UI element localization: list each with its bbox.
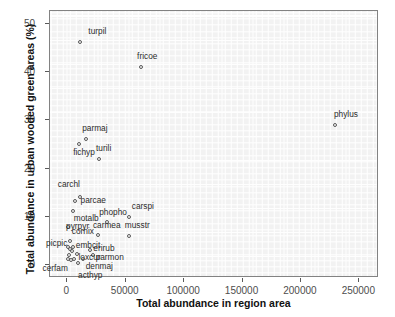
data-point (77, 142, 81, 146)
data-point-label: parcae (81, 196, 106, 205)
scatter-plot-figure: turpilfricoephylusparmajfichypturilicarc… (0, 0, 395, 317)
data-point (97, 157, 101, 161)
x-tick-label: 100000 (166, 285, 199, 296)
data-point-label: turili (96, 144, 111, 153)
data-point (69, 258, 73, 262)
data-points-layer: turpilfricoephylusparmajfichypturilicarc… (50, 11, 377, 276)
x-axis-title: Total abundance in region area (49, 297, 378, 309)
data-point-label: cornix (72, 227, 94, 236)
plot-panel: turpilfricoephylusparmajfichypturilicarc… (49, 10, 378, 277)
data-point-label: picpic (46, 239, 67, 248)
data-point-label: musstr (125, 221, 150, 230)
data-point (84, 137, 88, 141)
data-point-label: phylus (334, 110, 358, 119)
data-point (78, 40, 82, 44)
data-point-label: carmea (93, 221, 121, 230)
x-tick-label: 200000 (283, 285, 316, 296)
x-tick-label: 150000 (225, 285, 258, 296)
data-point (333, 123, 337, 127)
data-point (67, 253, 71, 257)
data-point-label: turpil (88, 27, 106, 36)
data-point (76, 261, 80, 265)
data-point-label: parmaj (82, 124, 107, 133)
x-tick-label: 50000 (111, 285, 139, 296)
data-point (139, 65, 143, 69)
x-tick-label: 250000 (342, 285, 375, 296)
data-point (127, 215, 131, 219)
data-point-label: fricoe (137, 52, 157, 61)
x-tick-label: 0 (64, 285, 70, 296)
data-point-label: fichyp (73, 148, 95, 157)
data-point (68, 239, 72, 243)
y-axis-title: Total abundance in urban wooded green ar… (24, 0, 36, 299)
data-point (73, 199, 77, 203)
x-axis-tick-labels: 050000100000150000200000250000 (49, 278, 378, 294)
data-point (81, 257, 85, 261)
data-point-label: phopho (99, 208, 127, 217)
data-point-label: carchl (58, 180, 80, 189)
data-point-label: carspi (132, 202, 154, 211)
data-point (96, 233, 100, 237)
data-point (127, 234, 131, 238)
